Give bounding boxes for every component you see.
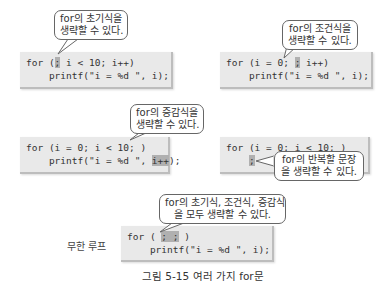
code-line: printf("i = %d ", i); (127, 244, 270, 255)
callout-all-omitted: for의 초기식, 조건식, 증감식 을 모두 생략할 수 있다. (159, 194, 286, 224)
callout-line: 생략할 수 있다. (60, 25, 122, 37)
code-line: for (i = 0; i < 10; ) (26, 142, 146, 153)
callout-body-omitted: for의 반복할 문장 을 생략할 수 있다. (274, 151, 364, 181)
callout-pointer (254, 152, 276, 172)
code-block-init-omitted: for (; i < 10; i++) printf("i = %d ", i)… (20, 52, 173, 89)
callout-line: for의 반복할 문장 (280, 154, 358, 166)
callout-line: 을 모두 생략할 수 있다. (165, 209, 280, 221)
callout-line: for의 초기식을 (60, 13, 122, 25)
code-line: printf("i = %d ", i); (26, 70, 169, 81)
callout-incr-omitted: for의 증감식을 생략할 수 있다. (130, 104, 204, 134)
code-line: for (i = 0; ; i++) (226, 57, 329, 68)
infinite-loop-label: 무한 루프 (67, 238, 106, 253)
callout-line: for의 증감식을 (136, 107, 198, 119)
code-line: printf("i = %d ", i++); (26, 155, 180, 166)
callout-cond-omitted: for의 조건식을 생략할 수 있다. (282, 20, 358, 50)
callout-init-omitted: for의 초기식을 생략할 수 있다. (54, 10, 128, 40)
code-line: ; (226, 155, 255, 166)
callout-line: 생략할 수 있다. (288, 35, 352, 47)
figure-caption: 그림 5-15 여러 가지 for문 (142, 268, 264, 283)
code-line: for (; i < 10; i++) (26, 57, 135, 68)
code-block-incr-omitted: for (i = 0; i < 10; ) printf("i = %d ", … (20, 137, 170, 174)
highlight: i++ (152, 155, 169, 166)
callout-line: for의 조건식을 (288, 23, 352, 35)
callout-line: for의 초기식, 조건식, 증감식 (165, 197, 280, 209)
callout-line: 생략할 수 있다. (136, 119, 198, 131)
callout-line: 을 생략할 수 있다. (280, 166, 358, 178)
code-line: printf("i = %d ", i); (226, 70, 369, 81)
